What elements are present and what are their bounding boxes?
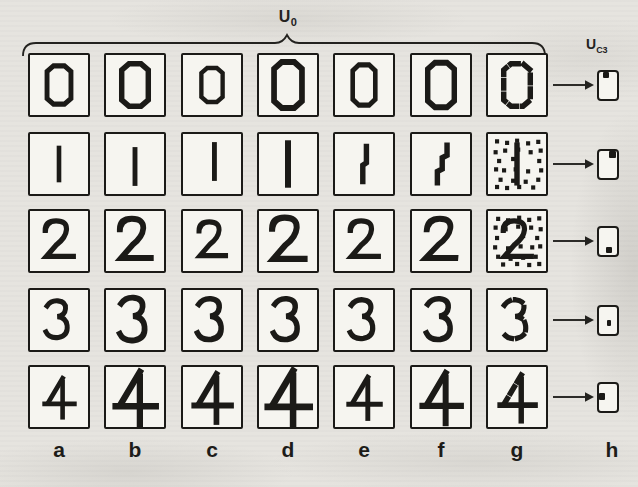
response-activation-mark [599,393,605,400]
digit-cell-4-d [257,365,319,429]
noise-dot [494,226,498,230]
digit-glyph-3 [274,299,298,340]
digit-glyph-0 [47,66,71,104]
u0-label: U0 [266,8,310,28]
noise-dot [516,225,520,229]
digit-cell-4-e [333,365,395,429]
digit-cell-1-b [104,132,166,196]
noise-dot [537,262,541,266]
digit-glyph-3 [350,300,372,339]
digit-cell-3-f [410,288,472,352]
noise-dot [515,139,519,143]
digit-glyph-2 [350,221,378,257]
digit-cell-0-d [257,53,319,117]
digit-glyph-4 [45,378,75,417]
digit-cell-4-a [28,365,90,429]
digit-cell-2-b [104,209,166,273]
noise-dot [494,150,498,154]
digit-glyph-0 [504,64,531,107]
noise-dot [495,139,499,143]
digit-cell-3-g [486,288,548,352]
noise-dot [505,141,509,145]
digit-glyph-1 [437,145,447,183]
digit-glyph-4 [500,375,535,421]
noise-dot [529,150,533,154]
noise-dot [497,159,501,163]
column-label-f: f [426,438,456,462]
digit-cell-4-g [486,365,548,429]
digit-cell-1-e [333,132,395,196]
arrow-right-icon [552,390,594,404]
column-label-e: e [349,438,379,462]
digit-glyph-4 [349,377,381,418]
digit-glyph-1 [363,147,367,182]
arrow-right-icon [552,234,594,248]
noise-dot [539,149,543,153]
arrow-right-icon [552,78,594,92]
arrow-right-icon [552,157,594,171]
digit-cell-1-c [181,132,243,196]
digit-cell-1-g [486,132,548,196]
uc3-label-base: U [586,36,596,52]
digit-cell-2-c [181,209,243,273]
noise-dot [539,168,543,172]
digit-cell-2-f [410,209,472,273]
digit-glyph-3 [198,299,222,340]
noise-dot [530,245,534,249]
noise-dot [494,167,498,171]
response-activation-mark [609,151,616,159]
digit-cell-0-b [104,53,166,117]
digit-cell-3-b [104,288,166,352]
uc3-label: UC3 [586,36,630,55]
digit-cell-3-a [28,288,90,352]
column-label-a: a [44,438,74,462]
noise-dot [493,245,497,249]
uc3-response-box-2 [597,226,619,257]
scanned-figure-page: U0 UC3 abcdefgh [0,0,638,487]
digit-cell-3-c [181,288,243,352]
noise-dot [496,217,500,221]
uc3-response-box-4 [597,382,619,413]
column-label-g: g [502,438,532,462]
digit-glyph-2 [272,218,305,259]
noise-dot [537,159,541,163]
noise-dot [529,226,533,230]
u0-label-sub: 0 [291,16,298,28]
digit-cell-2-g [486,209,548,273]
noise-dot [535,236,539,240]
column-label-d: d [273,438,303,462]
noise-dot [495,236,499,240]
digit-cell-1-f [410,132,472,196]
digit-glyph-4 [268,371,310,426]
digit-cell-2-e [333,209,395,273]
digit-cell-2-a [28,209,90,273]
digit-glyph-3 [503,300,525,339]
digit-glyph-0 [274,62,302,108]
noise-dot [515,262,519,266]
digit-cell-0-a [28,53,90,117]
digit-glyph-3 [46,301,67,338]
response-activation-mark [607,320,612,326]
digit-glyph-2 [45,221,73,257]
digit-cell-2-d [257,209,319,273]
uc3-response-box-3 [597,305,619,336]
column-label-c: c [197,438,227,462]
digit-cell-3-e [333,288,395,352]
digit-cell-0-e [333,53,395,117]
digit-cell-4-c [181,365,243,429]
digit-cell-1-a [28,132,90,196]
digit-glyph-0 [353,65,376,105]
digit-cell-0-c [181,53,243,117]
digit-glyph-2 [199,222,226,256]
digit-glyph-4 [422,373,461,423]
digit-cell-1-d [257,132,319,196]
digit-cell-0-g [486,53,548,117]
digit-glyph-3 [120,298,145,341]
digit-glyph-2 [120,219,151,258]
noise-dot [539,227,543,231]
noise-dot [503,149,507,153]
response-activation-mark [603,72,608,78]
noise-dot [527,218,531,222]
noise-dot [536,178,540,182]
noise-dot [499,178,503,182]
